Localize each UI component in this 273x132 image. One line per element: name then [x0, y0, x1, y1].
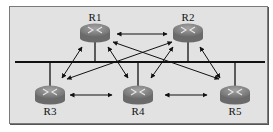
- router-r2[interactable]: [173, 24, 203, 43]
- ethernet-bus: [15, 42, 265, 86]
- router-label-r2: R2: [182, 12, 195, 23]
- router-label-r5: R5: [229, 106, 242, 117]
- adjacency-r1-r5: [113, 42, 219, 79]
- router-r5[interactable]: [220, 86, 250, 105]
- adjacency-r2-r3: [67, 42, 172, 79]
- router-label-r4: R4: [132, 106, 145, 117]
- router-r4[interactable]: [123, 86, 153, 105]
- router-r1[interactable]: [80, 24, 110, 43]
- router-label-r1: R1: [89, 12, 102, 23]
- routers: [35, 24, 250, 105]
- router-r3[interactable]: [35, 86, 65, 105]
- router-label-r3: R3: [44, 106, 57, 117]
